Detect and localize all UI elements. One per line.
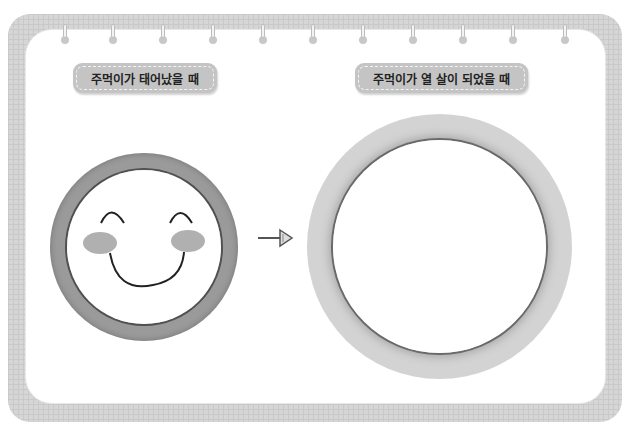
ring-stem [63, 24, 67, 38]
smiley-face-icon [50, 153, 238, 341]
ring-stem [161, 24, 165, 38]
face-features-icon [67, 170, 221, 324]
ring-stem [111, 24, 115, 38]
binder-ring-icon [459, 24, 467, 46]
empty-circle-drawing-area [307, 114, 572, 379]
binder-ring-icon [509, 24, 517, 46]
ring-stem [211, 24, 215, 38]
binder-ring-icon [159, 24, 167, 46]
birth-label: 주먹이가 태어났을 때 [73, 63, 217, 93]
ring-stem [461, 24, 465, 38]
birth-label-text: 주먹이가 태어났을 때 [91, 70, 198, 87]
binder-ring-icon [61, 24, 69, 46]
arrow-right-icon [256, 226, 296, 250]
ring-stem [563, 24, 567, 38]
age-ten-label-text: 주먹이가 열 살이 되었을 때 [373, 70, 511, 87]
binder-ring-icon [409, 24, 417, 46]
binder-ring-icon [359, 24, 367, 46]
face-inner [67, 170, 221, 324]
binder-ring-icon [109, 24, 117, 46]
ring-stem [361, 24, 365, 38]
binder-ring-icon [309, 24, 317, 46]
ring-stem [311, 24, 315, 38]
binder-ring-icon [259, 24, 267, 46]
ring-stem [511, 24, 515, 38]
big-circle-inner [333, 140, 546, 353]
ring-stem [411, 24, 415, 38]
binder-ring-icon [209, 24, 217, 46]
ring-stem [261, 24, 265, 38]
age-ten-label: 주먹이가 열 살이 되었을 때 [355, 63, 528, 93]
binder-ring-icon [561, 24, 569, 46]
